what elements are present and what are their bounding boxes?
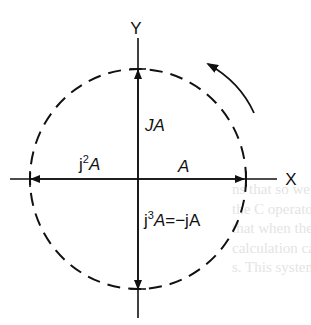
y-axis-label: Y [130, 19, 141, 38]
label-j2A: j2A [78, 153, 100, 174]
label-j3A: j3A=−jA [143, 209, 201, 230]
diagram-canvas: Y X JA j2A A j3A=−jA [0, 0, 311, 325]
label-A: A [177, 157, 189, 176]
x-axis-label: X [285, 170, 296, 189]
phasor-diagram: ns that so we can the C operator that wh… [0, 0, 311, 325]
label-jA: JA [144, 116, 165, 135]
rotation-arrow-icon [208, 64, 254, 113]
